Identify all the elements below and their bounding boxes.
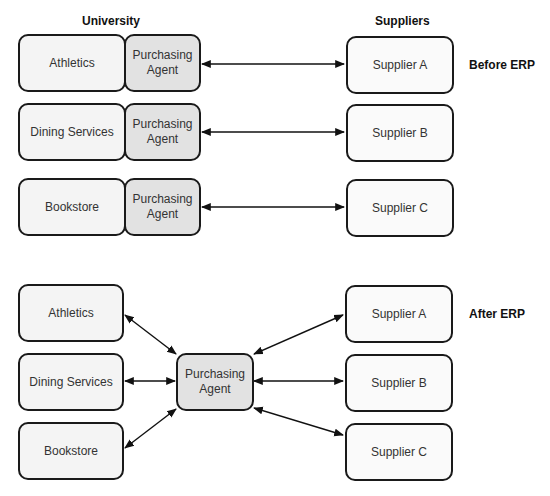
supplier-label: Supplier A <box>373 58 428 73</box>
dept-label: Athletics <box>48 306 93 321</box>
after-agent-box: Purchasing Agent <box>176 353 254 411</box>
after-athletics-box: Athletics <box>18 284 124 342</box>
supplier-label: Supplier C <box>371 445 427 460</box>
after-supplier-c-box: Supplier C <box>345 423 453 481</box>
after-supplier-b-box: Supplier B <box>345 354 453 412</box>
agent-label: Purchasing Agent <box>133 48 193 78</box>
before-agent-box-1: Purchasing Agent <box>124 34 201 92</box>
agent-label: Purchasing Agent <box>184 367 246 397</box>
before-agent-box-2: Purchasing Agent <box>124 103 201 161</box>
after-bookstore-box: Bookstore <box>18 422 124 480</box>
dept-label: Bookstore <box>45 200 99 215</box>
after-supplier-a-box: Supplier A <box>345 285 453 343</box>
agent-label: Purchasing Agent <box>133 192 193 222</box>
before-supplier-c-box: Supplier C <box>346 179 454 237</box>
supplier-label: Supplier A <box>372 307 427 322</box>
agent-label: Purchasing Agent <box>133 117 193 147</box>
before-supplier-a-box: Supplier A <box>346 36 454 94</box>
before-supplier-b-box: Supplier B <box>346 104 454 162</box>
supplier-label: Supplier B <box>372 126 427 141</box>
before-athletics-box: Athletics <box>18 34 126 92</box>
dept-label: Dining Services <box>30 125 113 140</box>
before-agent-box-3: Purchasing Agent <box>124 178 201 236</box>
dept-label: Dining Services <box>29 375 112 390</box>
before-dining-box: Dining Services <box>18 103 126 161</box>
dept-label: Athletics <box>49 56 94 71</box>
supplier-label: Supplier C <box>372 201 428 216</box>
after-dining-box: Dining Services <box>18 353 124 411</box>
dept-label: Bookstore <box>44 444 98 459</box>
before-bookstore-box: Bookstore <box>18 178 126 236</box>
supplier-label: Supplier B <box>371 376 426 391</box>
